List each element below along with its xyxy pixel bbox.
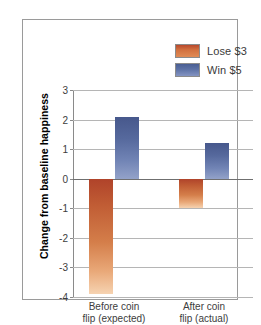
chart-frame: Lose $3 Win $5 Change from baseline happ… xyxy=(22,19,238,300)
y-tick-label--2: -2 xyxy=(59,232,68,243)
bar-lose-group-0 xyxy=(89,179,113,294)
x-label-line: After coin xyxy=(149,301,259,313)
x-axis-label-group-1: After coinflip (actual) xyxy=(149,301,259,325)
bar-lose-group-1 xyxy=(179,179,203,209)
gridline--4 xyxy=(73,297,253,298)
legend-label-win: Win $5 xyxy=(207,64,242,76)
y-tick-mark-1 xyxy=(70,149,73,150)
legend-label-lose: Lose $3 xyxy=(207,45,247,57)
y-tick-label-0: 0 xyxy=(62,173,68,184)
legend-item-win: Win $5 xyxy=(175,63,247,77)
gridline-2 xyxy=(73,120,253,121)
legend-item-lose: Lose $3 xyxy=(175,44,247,58)
y-tick-mark-0 xyxy=(70,179,73,180)
y-tick-mark--3 xyxy=(70,267,73,268)
y-axis-title: Change from baseline happiness xyxy=(38,91,50,261)
y-tick-mark-2 xyxy=(70,120,73,121)
y-axis-line xyxy=(73,90,74,297)
y-tick-label-2: 2 xyxy=(62,114,68,125)
y-tick-label--3: -3 xyxy=(59,262,68,273)
gridline-3 xyxy=(73,90,253,91)
bar-win-group-0 xyxy=(115,117,139,179)
y-tick-mark-3 xyxy=(70,90,73,91)
bar-win-group-1 xyxy=(205,143,229,178)
x-label-line: flip (actual) xyxy=(149,313,259,325)
y-tick-mark--4 xyxy=(70,297,73,298)
y-tick-label--1: -1 xyxy=(59,203,68,214)
y-tick-mark--2 xyxy=(70,238,73,239)
chart-legend: Lose $3 Win $5 xyxy=(175,44,247,77)
plot-area: 3210-1-2-3-4 xyxy=(73,90,253,297)
y-tick-label-3: 3 xyxy=(62,85,68,96)
y-tick-label-1: 1 xyxy=(62,144,68,155)
y-tick-mark--1 xyxy=(70,208,73,209)
legend-swatch-win-icon xyxy=(175,63,200,77)
legend-swatch-lose-icon xyxy=(175,44,200,58)
